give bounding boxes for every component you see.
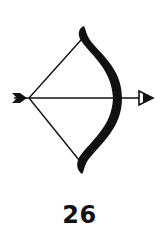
symbol-card: 26 <box>0 0 159 248</box>
bow-limb <box>77 26 122 174</box>
bow-string <box>29 40 81 160</box>
bow-and-arrow-icon <box>0 0 159 185</box>
card-number: 26 <box>0 200 159 230</box>
